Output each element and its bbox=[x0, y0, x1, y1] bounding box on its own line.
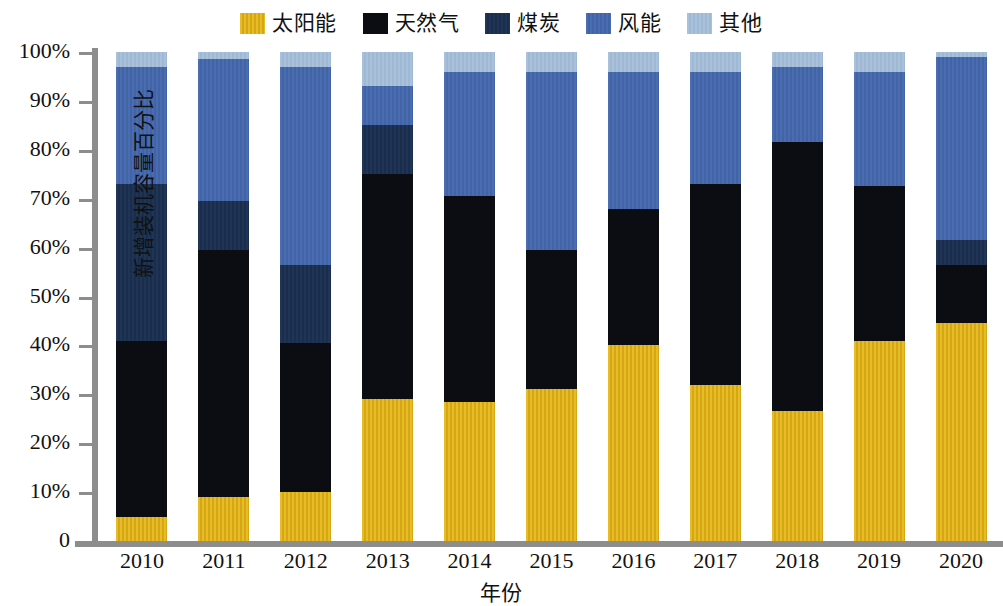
bar-segment[interactable] bbox=[444, 72, 495, 197]
bar-segment[interactable] bbox=[690, 184, 741, 384]
bar-segment[interactable] bbox=[280, 265, 331, 343]
bar-segment[interactable] bbox=[608, 345, 659, 541]
bar-segment[interactable] bbox=[608, 209, 659, 346]
y-axis-tick-label: 50% bbox=[30, 283, 70, 309]
legend-label: 其他 bbox=[719, 13, 762, 34]
x-label-slot: 2019 bbox=[838, 548, 920, 578]
y-axis-tick: 80% bbox=[79, 150, 92, 153]
stacked-bar[interactable] bbox=[936, 52, 987, 541]
legend-item[interactable]: 天然气 bbox=[363, 13, 460, 34]
bar-segment[interactable] bbox=[280, 492, 331, 541]
bar-segment[interactable] bbox=[936, 57, 987, 240]
y-axis-tick: 70% bbox=[79, 199, 92, 202]
bar-segment[interactable] bbox=[526, 250, 577, 389]
legend-label: 太阳能 bbox=[272, 13, 337, 34]
bar-segment[interactable] bbox=[198, 497, 249, 541]
bar-segment[interactable] bbox=[280, 52, 331, 67]
legend-label: 天然气 bbox=[395, 13, 460, 34]
bar-segment[interactable] bbox=[362, 399, 413, 541]
x-axis-title: 年份 bbox=[0, 576, 1002, 606]
y-axis-tick: 10% bbox=[79, 492, 92, 495]
y-axis-tick-label: 70% bbox=[30, 185, 70, 211]
bar-segment[interactable] bbox=[854, 341, 905, 541]
stacked-bar[interactable] bbox=[608, 52, 659, 541]
bar-segment[interactable] bbox=[116, 517, 167, 541]
bar-segment[interactable] bbox=[608, 72, 659, 209]
bar-segment[interactable] bbox=[854, 186, 905, 340]
bar-segment[interactable] bbox=[772, 411, 823, 541]
bar-slot bbox=[511, 52, 593, 541]
bar-segment[interactable] bbox=[936, 240, 987, 264]
stacked-bar[interactable] bbox=[362, 52, 413, 541]
y-axis-tick-label: 0 bbox=[59, 527, 70, 553]
bar-segment[interactable] bbox=[116, 341, 167, 517]
bar-segment[interactable] bbox=[526, 52, 577, 72]
y-axis-line bbox=[92, 48, 98, 545]
bar-segment[interactable] bbox=[526, 389, 577, 541]
legend-label: 煤炭 bbox=[517, 13, 560, 34]
stacked-bar[interactable] bbox=[772, 52, 823, 541]
y-axis-tick: 60% bbox=[79, 248, 92, 251]
bar-segment[interactable] bbox=[280, 67, 331, 265]
bar-slot bbox=[429, 52, 511, 541]
stacked-bar[interactable] bbox=[526, 52, 577, 541]
stacked-bar[interactable] bbox=[280, 52, 331, 541]
bar-segment[interactable] bbox=[362, 174, 413, 399]
x-label-slot: 2017 bbox=[674, 548, 756, 578]
legend-item[interactable]: 风能 bbox=[586, 13, 661, 34]
bar-segment[interactable] bbox=[690, 72, 741, 184]
x-label-slot: 2011 bbox=[183, 548, 265, 578]
bar-segment[interactable] bbox=[854, 52, 905, 72]
x-axis-tick-label: 2017 bbox=[693, 548, 737, 574]
bar-segment[interactable] bbox=[362, 125, 413, 174]
bar-segment[interactable] bbox=[444, 196, 495, 401]
bar-segment[interactable] bbox=[362, 86, 413, 125]
y-axis-tick: 90% bbox=[79, 101, 92, 104]
x-label-slot: 2013 bbox=[347, 548, 429, 578]
stacked-bar[interactable] bbox=[690, 52, 741, 541]
y-axis-tick: 40% bbox=[79, 345, 92, 348]
bar-segment[interactable] bbox=[936, 323, 987, 541]
bar-segment[interactable] bbox=[280, 343, 331, 492]
legend-swatch-icon bbox=[687, 13, 712, 34]
plot-area: 010%20%30%40%50%60%70%80%90%100% bbox=[101, 52, 1002, 541]
bar-segment[interactable] bbox=[690, 385, 741, 541]
bar-segment[interactable] bbox=[198, 59, 249, 201]
bar-slot bbox=[838, 52, 920, 541]
bar-slot bbox=[920, 52, 1002, 541]
legend-swatch-icon bbox=[485, 13, 510, 34]
stacked-bar[interactable] bbox=[854, 52, 905, 541]
bar-segment[interactable] bbox=[854, 72, 905, 187]
x-axis-tick-label: 2020 bbox=[939, 548, 983, 574]
bar-segment[interactable] bbox=[608, 52, 659, 72]
x-label-slot: 2012 bbox=[265, 548, 347, 578]
bar-segment[interactable] bbox=[362, 52, 413, 86]
legend-swatch-icon bbox=[586, 13, 611, 34]
bar-slot bbox=[347, 52, 429, 541]
legend-item[interactable]: 煤炭 bbox=[485, 13, 560, 34]
x-axis-tick-label: 2019 bbox=[857, 548, 901, 574]
bar-segment[interactable] bbox=[690, 52, 741, 72]
bar-segment[interactable] bbox=[936, 265, 987, 324]
bar-segment[interactable] bbox=[198, 52, 249, 59]
bar-segment[interactable] bbox=[198, 201, 249, 250]
y-axis-tick-label: 60% bbox=[30, 234, 70, 260]
bar-segment[interactable] bbox=[198, 250, 249, 497]
x-label-slot: 2020 bbox=[920, 548, 1002, 578]
stacked-bar[interactable] bbox=[198, 52, 249, 541]
bar-slot bbox=[183, 52, 265, 541]
bar-segment[interactable] bbox=[772, 67, 823, 143]
legend-item[interactable]: 其他 bbox=[687, 13, 762, 34]
bar-segment[interactable] bbox=[772, 142, 823, 411]
x-axis-tick-label: 2012 bbox=[284, 548, 328, 574]
bar-segment[interactable] bbox=[772, 52, 823, 67]
bar-segment[interactable] bbox=[526, 72, 577, 250]
stacked-bar[interactable] bbox=[444, 52, 495, 541]
y-axis-tick-label: 20% bbox=[30, 430, 70, 456]
x-axis-tick-label: 2014 bbox=[448, 548, 492, 574]
bar-segment[interactable] bbox=[444, 402, 495, 541]
legend-item[interactable]: 太阳能 bbox=[240, 13, 337, 34]
x-axis-tick-label: 2013 bbox=[366, 548, 410, 574]
bar-slot bbox=[265, 52, 347, 541]
bar-segment[interactable] bbox=[444, 52, 495, 72]
